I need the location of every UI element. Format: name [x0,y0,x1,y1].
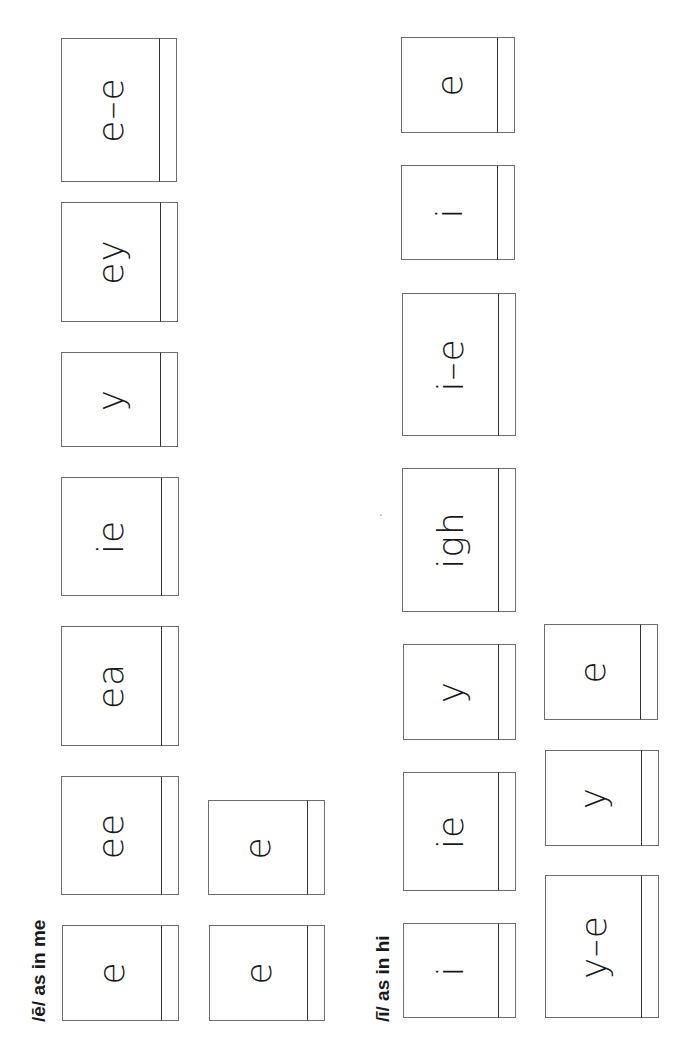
card-tab [161,626,179,746]
card-tab [641,875,659,1018]
card-tab [161,925,179,1021]
card-tab [160,202,178,322]
card-text: ee [93,812,129,858]
letter-card-e-e[interactable]: e–e [61,38,177,182]
card-tab [498,468,516,612]
letter-card-i[interactable]: i [401,165,515,260]
letter-card-y-e[interactable]: y–e [545,875,659,1018]
card-tab [497,165,515,260]
card-tab [641,750,659,846]
letter-card-y[interactable]: y [545,750,659,846]
card-text: e [241,961,277,984]
card-text: e [575,660,611,683]
letter-card-y[interactable]: y [61,352,178,447]
card-text: i–e [433,338,469,391]
letter-card-i[interactable]: i [403,923,516,1018]
card-tab [307,925,325,1021]
card-text: ey [93,239,129,284]
card-text: y–e [575,915,611,979]
card-text: e [240,836,276,859]
card-tab [498,923,516,1018]
letter-card-i-e[interactable]: i–e [402,293,516,436]
letter-card-ie[interactable]: ie [403,772,516,891]
card-text: i [431,207,467,218]
scan-speck [380,514,382,516]
section-label-long-e: /ē/ as in me [28,920,50,1022]
letter-card-y[interactable]: y [403,644,516,740]
letter-card-ea[interactable]: ea [61,626,179,746]
card-text: ie [94,519,130,553]
letter-card-igh[interactable]: igh [402,468,516,612]
letter-card-e[interactable]: e [401,37,515,133]
card-tab [160,352,178,447]
card-tab [161,477,179,596]
card-text: i [433,965,469,976]
card-text: y [433,681,469,703]
card-text: y [576,787,612,809]
card-tab [159,38,177,182]
card-tab [498,644,516,740]
letter-card-ey[interactable]: ey [61,202,178,322]
letter-card-ie[interactable]: ie [61,477,179,596]
card-text: igh [432,511,468,568]
card-text: e [94,961,130,984]
letter-card-e[interactable]: e [209,925,325,1021]
section-label-long-i: /ī/ as in hi [372,935,394,1022]
card-text: ie [433,814,469,848]
card-text: e–e [92,77,128,142]
letter-card-e[interactable]: e [208,800,325,895]
card-tab [307,800,325,895]
letter-card-e[interactable]: e [544,624,658,720]
card-tab [161,776,179,895]
card-tab [498,772,516,891]
letter-card-e[interactable]: e [62,925,179,1021]
card-text: ea [94,663,130,709]
card-text: e [432,73,468,96]
card-tab [498,293,516,436]
card-tab [640,624,658,720]
card-text: y [93,388,129,410]
letter-card-ee[interactable]: ee [61,776,179,895]
card-tab [497,37,515,133]
